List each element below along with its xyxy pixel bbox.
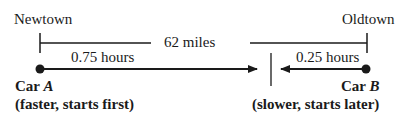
car-b-description: (slower, starts later) xyxy=(252,97,379,112)
car-b-name-prefix: Car xyxy=(341,78,369,94)
car-a-name-letter: A xyxy=(43,78,53,94)
car-b-name-letter: B xyxy=(369,78,379,94)
car-b-name: Car B xyxy=(341,79,380,94)
car-a-description: (faster, starts first) xyxy=(15,97,134,112)
car-a-time-label: 0.75 hours xyxy=(71,50,134,65)
distance-label: 62 miles xyxy=(164,35,215,50)
town-label-newtown: Newtown xyxy=(14,12,72,27)
car-b-path xyxy=(281,65,371,74)
car-a-path xyxy=(36,65,258,74)
car-b-time-label: 0.25 hours xyxy=(296,50,359,65)
town-label-oldtown: Oldtown xyxy=(342,12,395,27)
car-a-name-prefix: Car xyxy=(15,78,43,94)
car-a-name: Car A xyxy=(15,79,54,94)
